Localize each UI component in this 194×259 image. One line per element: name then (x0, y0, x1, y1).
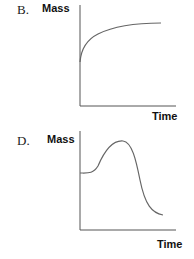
curve-d (80, 141, 163, 215)
graphs (0, 0, 194, 259)
curve-b (80, 23, 161, 62)
axes-b (80, 5, 176, 106)
